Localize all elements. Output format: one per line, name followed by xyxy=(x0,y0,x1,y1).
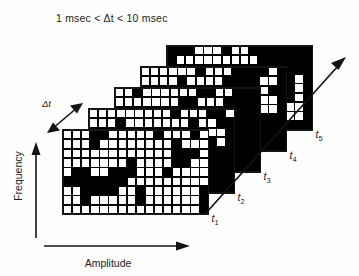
time-tick-3: t3 xyxy=(264,170,271,185)
time-tick-4: t4 xyxy=(290,149,297,164)
figure-container: 1 msec < Δt < 10 msec Frequency Amplitud… xyxy=(0,0,359,276)
amplitude-axis-label: Amplitude xyxy=(28,257,188,269)
delta-t-arrow xyxy=(47,103,83,133)
frequency-axis-label: Frequency xyxy=(12,136,24,216)
delta-t-label: Δt xyxy=(42,98,51,109)
amplitude-axis-arrow xyxy=(44,242,190,251)
time-tick-2: t2 xyxy=(238,191,245,206)
time-tick-5: t5 xyxy=(316,128,323,143)
frequency-axis-arrow xyxy=(32,142,41,238)
time-depth-axis-arrow xyxy=(206,57,346,213)
time-tick-1: t1 xyxy=(212,212,219,227)
axes-overlay xyxy=(0,0,359,276)
